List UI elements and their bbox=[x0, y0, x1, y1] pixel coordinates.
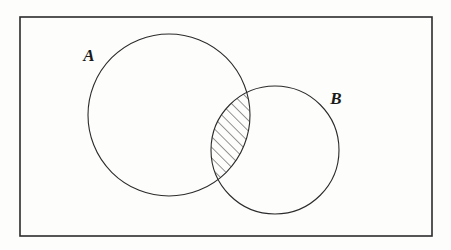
set-a-label: A bbox=[82, 46, 94, 65]
venn-diagram-figure: A B bbox=[0, 0, 451, 250]
venn-diagram-canvas: A B bbox=[0, 0, 451, 250]
set-b-label: B bbox=[329, 89, 341, 108]
